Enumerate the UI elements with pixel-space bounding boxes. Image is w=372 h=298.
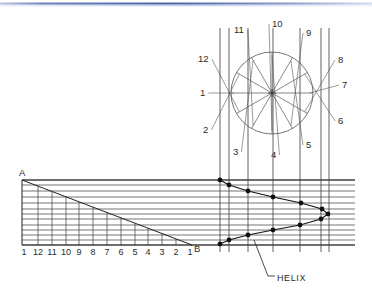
apex-label-a: A (19, 167, 26, 178)
dev-tick-label-9: 4 (145, 247, 150, 257)
helix-point-13 (218, 242, 223, 247)
helix-callout-label: HELIX (277, 273, 306, 283)
helix-construction-drawing: 123456789101112 1121110987654321 A B HEL… (0, 0, 372, 298)
plan-label-11: 11 (234, 24, 244, 35)
helix-point-11 (246, 233, 251, 238)
plan-label-1: 1 (200, 87, 205, 98)
dev-tick-label-0: 1 (21, 247, 26, 257)
plan-label-6: 6 (338, 115, 343, 126)
dev-tick-label-2: 11 (47, 247, 56, 257)
drawing-canvas: 123456789101112 1121110987654321 A B HEL… (0, 0, 372, 298)
helix-point-6 (320, 207, 325, 212)
dev-tick-label-7: 6 (118, 247, 123, 257)
plan-label-4: 4 (271, 149, 276, 160)
helix-point-4 (271, 195, 276, 200)
dev-tick-label-1: 12 (33, 247, 43, 257)
helix-point-9 (298, 223, 303, 228)
helix-point-7 (326, 212, 331, 217)
dev-tick-label-8: 5 (132, 247, 137, 257)
plan-label-8: 8 (338, 54, 343, 65)
plan-label-10: 10 (272, 18, 283, 29)
helix-point-2 (227, 183, 232, 188)
dev-tick-label-12: 1 (187, 247, 192, 257)
dev-tick-label-3: 10 (61, 247, 71, 257)
dev-tick-label-6: 7 (104, 247, 109, 257)
dev-tick-label-10: 3 (159, 247, 164, 257)
vertical-projector-lines (220, 28, 329, 252)
helix-construction-points (218, 178, 331, 247)
base-end-label-b: B (194, 243, 200, 254)
dev-tick-label-5: 8 (90, 247, 95, 257)
dev-tick-label-11: 2 (173, 247, 178, 257)
plan-label-3: 3 (233, 146, 238, 157)
plan-label-7: 7 (342, 79, 347, 90)
helix-point-12 (227, 238, 232, 243)
helix-point-3 (246, 189, 251, 194)
helix-point-10 (271, 228, 276, 233)
plan-label-2: 2 (203, 124, 208, 135)
top-divider-band (0, 0, 372, 9)
helix-point-5 (299, 201, 304, 206)
horizontal-projection-lines (22, 180, 355, 245)
plan-label-9: 9 (306, 27, 311, 38)
helix-curve (220, 180, 328, 244)
dev-tick-label-4: 9 (76, 247, 81, 257)
helix-point-8 (319, 217, 324, 222)
development-tick-labels: 1121110987654321 (21, 247, 192, 257)
plan-label-5: 5 (306, 139, 311, 150)
plan-label-12: 12 (198, 53, 209, 64)
helix-point-1 (218, 178, 223, 183)
